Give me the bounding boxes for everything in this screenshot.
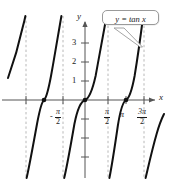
fraction-denominator: 2 [137, 118, 147, 126]
fraction-denominator: 2 [104, 118, 110, 126]
y-tick-label-3: 3 [72, 38, 76, 47]
x-axis-label: x [159, 93, 163, 102]
y-tick-label-1: 1 [72, 76, 76, 85]
fraction-numerator: π [104, 108, 110, 116]
x-tick-label-pi-over-2: π 2 [104, 108, 110, 127]
fraction-numerator: π [55, 108, 61, 116]
fraction-denominator: 2 [55, 118, 61, 126]
y-axis-label: y [77, 12, 81, 21]
fraction-neg-pi-over-2: π 2 [55, 108, 61, 126]
x-tick-label-3pi-over-2: 3π 2 [137, 108, 147, 127]
zero-point-origin [83, 98, 88, 103]
fraction-3pi-over-2: 3π 2 [137, 108, 147, 126]
y-tick-label-2: 2 [72, 57, 76, 66]
fraction-pi-over-2: π 2 [104, 108, 110, 126]
zero-point-pi [124, 98, 129, 103]
tan-branch-neg-3pi-2-to-neg-pi-2 [27, 16, 62, 178]
tan-curve-group [8, 16, 164, 178]
axis-group [2, 22, 155, 178]
zero-point-neg-pi [42, 98, 47, 103]
tan-x-plot [0, 0, 171, 183]
x-tick-label-neg-pi-over-2: - π 2 [50, 108, 61, 127]
fraction-numerator: 3π [137, 108, 147, 116]
tan-branch-partial-left [8, 16, 25, 78]
x-tick-label-pi: π [120, 111, 124, 119]
minus-sign: - [50, 113, 53, 121]
x-axis-arrowhead [149, 97, 155, 102]
tan-branch-partial-right [146, 114, 164, 178]
callout-leader-line [114, 28, 143, 47]
y-axis-arrowhead [82, 21, 87, 27]
tangent-function-figure: y x 3 2 1 - π 2 π 2 π 3π 2 y = tan x [0, 0, 171, 183]
function-callout-label: y = tan x [102, 10, 159, 25]
